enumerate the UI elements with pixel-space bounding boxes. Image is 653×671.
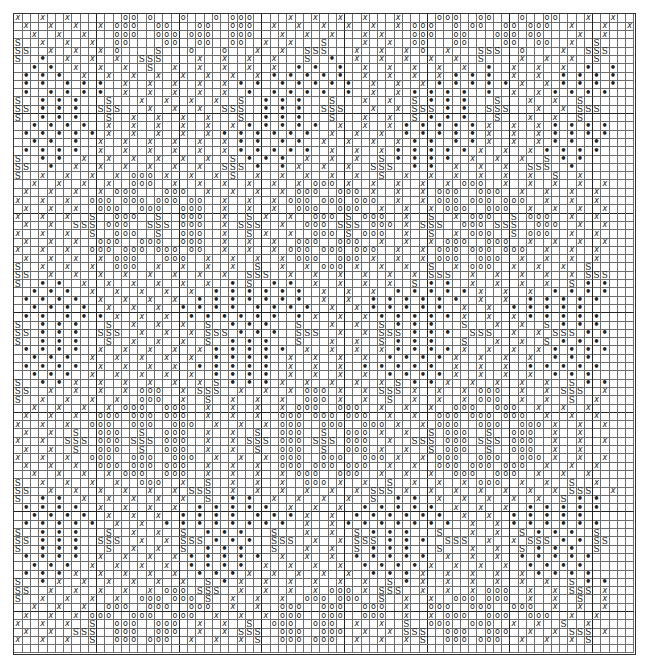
chart-grid: xxxooooooooxxxxxooooooooxxxxxxoooooooooo… bbox=[13, 13, 636, 655]
empty-cell bbox=[626, 645, 635, 654]
